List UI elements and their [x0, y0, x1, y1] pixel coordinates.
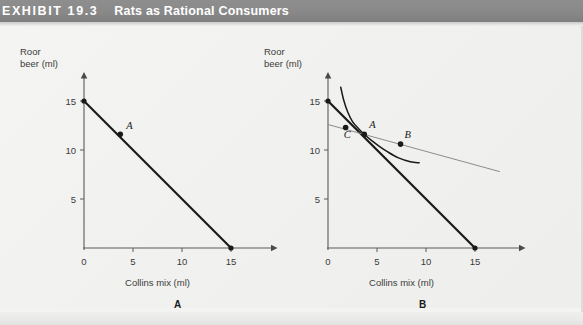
data-point-label-a: A	[125, 120, 133, 131]
panel-caption-a: A	[174, 299, 181, 310]
series-budget-line	[328, 101, 475, 248]
y-tick-label: 10	[65, 145, 76, 156]
charts-container: 51015051015Roorbeer (ml)Collins mix (ml)…	[0, 26, 583, 308]
series-flatter-budget-line	[328, 125, 500, 172]
x-tick-label: 15	[226, 256, 237, 267]
y-tick-label: 10	[309, 145, 320, 156]
y-axis-label-line1: Roor	[264, 46, 285, 57]
x-tick-label: 0	[81, 256, 86, 267]
data-point-b[interactable]	[398, 141, 404, 147]
y-tick-label: 5	[71, 194, 76, 205]
footer-strip	[0, 312, 583, 325]
y-axis-label-line1: Roor	[20, 46, 41, 57]
y-axis-label-line2: beer (ml)	[264, 58, 302, 69]
data-point-a[interactable]	[117, 132, 123, 138]
endpoint-dot	[81, 98, 86, 103]
x-tick-label: 15	[470, 256, 481, 267]
exhibit-number-label: EXHIBIT 19.3	[2, 4, 98, 18]
x-axis-label: Collins mix (ml)	[369, 277, 434, 288]
x-tick-label: 0	[325, 256, 330, 267]
x-axis-label: Collins mix (ml)	[125, 277, 190, 288]
endpoint-dot	[228, 245, 233, 250]
y-tick-label: 15	[309, 96, 320, 107]
x-tick-label: 5	[130, 256, 135, 267]
x-tick-label: 5	[374, 256, 379, 267]
series-budget-line	[84, 101, 231, 248]
x-tick-label: 10	[421, 256, 432, 267]
y-tick-label: 15	[65, 96, 76, 107]
charts-svg: 51015051015Roorbeer (ml)Collins mix (ml)…	[0, 26, 583, 308]
endpoint-dot	[472, 245, 477, 250]
data-point-label-c: C	[344, 129, 352, 140]
exhibit-banner-content: EXHIBIT 19.3 Rats as Rational Consumers	[0, 2, 583, 20]
x-tick-label: 10	[177, 256, 188, 267]
exhibit-banner: EXHIBIT 19.3 Rats as Rational Consumers	[0, 0, 583, 22]
y-axis-label-line2: beer (ml)	[20, 58, 58, 69]
panel-caption-b: B	[419, 299, 426, 310]
data-point-label-a: A	[368, 119, 376, 130]
y-tick-label: 5	[315, 194, 320, 205]
chart-panel-b: 51015051015Roorbeer (ml)Collins mix (ml)…	[264, 46, 520, 288]
exhibit-figure: EXHIBIT 19.3 Rats as Rational Consumers …	[0, 0, 583, 325]
exhibit-title: Rats as Rational Consumers	[114, 4, 289, 18]
data-point-label-b: B	[405, 129, 412, 140]
endpoint-dot	[325, 98, 330, 103]
chart-panel-a: 51015051015Roorbeer (ml)Collins mix (ml)…	[20, 46, 272, 288]
data-point-a[interactable]	[361, 132, 367, 138]
